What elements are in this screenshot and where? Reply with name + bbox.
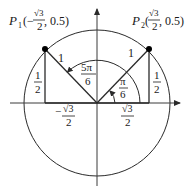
svg-text:6: 6 — [120, 88, 126, 100]
svg-text:√3: √3 — [122, 103, 133, 114]
svg-text:2: 2 — [152, 20, 158, 32]
svg-text:2: 2 — [154, 83, 160, 95]
svg-text:2: 2 — [66, 116, 72, 128]
angle-label-pi-6: π 6 — [119, 75, 128, 100]
angle-label-5pi-6: 5π 6 — [81, 61, 96, 87]
svg-text:6: 6 — [85, 75, 91, 87]
svg-text:√3: √3 — [149, 8, 159, 18]
svg-text:(−: (− — [23, 14, 34, 28]
svg-text:−: − — [55, 105, 61, 117]
svg-text:1: 1 — [35, 69, 41, 81]
svg-text:2: 2 — [125, 116, 131, 128]
svg-text:1: 1 — [154, 69, 160, 81]
point-p2-marker — [146, 46, 152, 52]
angle-arc-pi-6 — [110, 91, 115, 103]
x-label-sqrt3-2: √3 2 — [121, 103, 134, 128]
svg-text:√3: √3 — [63, 103, 74, 114]
point-p1-label: P 1 (− √3 2 , 0.5) — [8, 8, 69, 32]
svg-text:1: 1 — [18, 21, 22, 30]
svg-text:5π: 5π — [81, 61, 93, 73]
height-label-right: 1 2 — [153, 69, 161, 95]
svg-text:, 0.5): , 0.5) — [44, 14, 69, 28]
radius-label-right: 1 — [128, 46, 134, 60]
x-label-neg-sqrt3-2: − √3 2 — [55, 103, 75, 128]
svg-text:2: 2 — [35, 83, 41, 95]
point-p1-marker — [42, 46, 48, 52]
svg-text:P: P — [8, 13, 17, 28]
svg-text:π: π — [120, 75, 126, 87]
height-label-left: 1 2 — [34, 69, 42, 95]
svg-text:2: 2 — [37, 20, 43, 32]
svg-text:P: P — [131, 13, 140, 28]
radius-label-left: 1 — [58, 51, 64, 65]
unit-circle-diagram: P 1 (− √3 2 , 0.5) P 2 ( √3 2 , 0.5) 1 1… — [0, 0, 186, 189]
point-p2-label: P 2 ( √3 2 , 0.5) — [131, 8, 184, 32]
svg-text:, 0.5): , 0.5) — [159, 14, 184, 28]
svg-text:√3: √3 — [34, 8, 44, 18]
